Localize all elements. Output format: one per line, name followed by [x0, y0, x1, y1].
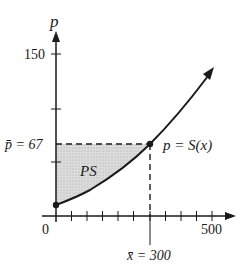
y-tick-label-150: 150 [24, 47, 45, 62]
x-axis-arrow-icon [225, 212, 236, 220]
x-tick-label-500: 500 [201, 222, 222, 237]
x-bar-label: x̄ = 300 [126, 248, 171, 263]
chart-canvas: p 150 p̄ = 67 PS p = S(x) 0 500 x̄ = 300 [0, 0, 242, 275]
curve-label: p = S(x) [162, 137, 212, 154]
equilibrium-point [147, 141, 153, 147]
y-axis-arrow-icon [52, 31, 60, 42]
curve-start-point [53, 202, 59, 208]
ps-area-label: PS [79, 163, 97, 179]
p-bar-label: p̄ = 67 [4, 137, 43, 152]
producer-surplus-region [56, 144, 150, 205]
origin-label: 0 [42, 222, 49, 237]
y-axis-label: p [49, 12, 59, 31]
curve-arrow-icon [203, 67, 214, 80]
